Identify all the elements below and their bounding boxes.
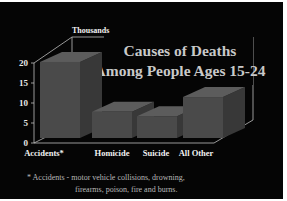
y-tick-label: 15 <box>19 78 29 88</box>
footnote-line-2: firearms, poison, fire and burns. <box>75 185 177 194</box>
x-tick-label: Accidents* <box>24 148 64 158</box>
x-tick-label: All Other <box>179 148 214 158</box>
title-line-1: Causes of Deaths <box>124 42 237 59</box>
footnote-line-1: * Accidents - motor vehicle collisions, … <box>27 173 185 182</box>
y-tick-label: 0 <box>24 138 29 148</box>
y-tick-label: 20 <box>19 58 29 68</box>
y-axis-labels: 05101520 <box>19 58 29 148</box>
footnote: * Accidents - motor vehicle collisions, … <box>27 173 185 194</box>
title-line-2: Among People Ages 15-24 <box>95 62 266 79</box>
chart-slide: 05101520 Thousands Causes of Deaths Amon… <box>0 2 283 199</box>
y-axis-unit-label: Thousands <box>72 26 109 35</box>
y-tick-label: 10 <box>19 98 29 108</box>
bar-chart-3d: 05101520 Thousands Causes of Deaths Amon… <box>0 2 283 199</box>
bar-all-other <box>183 87 245 138</box>
y-tick-label: 5 <box>24 118 29 128</box>
chart-image: 05101520 Thousands Causes of Deaths Amon… <box>0 0 287 201</box>
title-box: Causes of Deaths Among People Ages 15-24 <box>95 35 266 85</box>
y-axis-ticks <box>31 63 34 143</box>
x-tick-label: Homicide <box>95 148 130 158</box>
x-axis-labels: Accidents*HomicideSuicideAll Other <box>24 148 213 158</box>
x-tick-label: Suicide <box>143 148 170 158</box>
